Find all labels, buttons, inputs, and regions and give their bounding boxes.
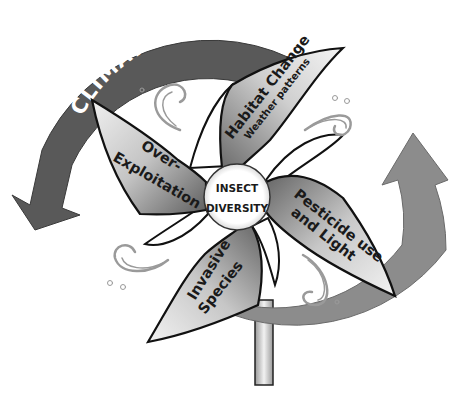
- blade-over-exploitation: Over- Exploitation: [92, 100, 206, 215]
- center-hub: INSECT DIVERSITY: [204, 164, 270, 230]
- swirl-top-right-icon: [305, 96, 351, 136]
- hub-label-line1: INSECT: [216, 182, 259, 194]
- pinwheel-diagram: CLIMATE CHANGE Habitat Change Weather pa…: [0, 0, 464, 395]
- hub-label-line2: DIVERSITY: [206, 202, 269, 214]
- swirl-bottom-left-icon: [108, 245, 169, 289]
- blade-pesticide-light: Pesticide use and Light: [266, 176, 395, 296]
